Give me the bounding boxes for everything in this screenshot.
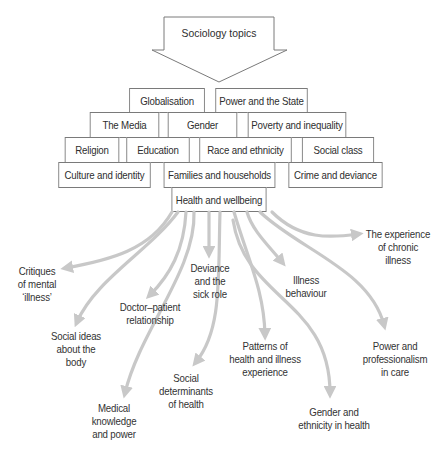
subtopic-experience-of-chronic-illness: The experience of chronic illness <box>365 228 432 267</box>
subtopic-deviance-and-sick-role: Deviance and the sick role <box>189 262 231 301</box>
subtopic-doctor-patient-relationship: Doctor–patient relationship <box>113 301 187 327</box>
arrow-critiques <box>66 212 172 268</box>
subtopic-illness-behaviour: Illness behaviour <box>280 274 333 300</box>
subtopic-critiques-of-mental-illness: Critiques of mental ‘illness’ <box>13 265 61 304</box>
subtopic-social-determinants-of-health: Social determinants of health <box>154 372 217 411</box>
arrow-illness-behaviour <box>247 212 282 262</box>
subtopic-social-ideas-about-the-body: Social ideas about the body <box>44 330 107 369</box>
arrow-patterns <box>234 212 265 335</box>
subtopic-patterns-of-health-and-illness: Patterns of health and illness experienc… <box>225 340 304 379</box>
subtopic-power-and-professionalism: Power and professionalism in care <box>360 340 430 379</box>
subtopic-gender-and-ethnicity-in-health: Gender and ethnicity in health <box>292 406 376 432</box>
subtopic-medical-knowledge-and-power: Medical knowledge and power <box>84 402 144 441</box>
